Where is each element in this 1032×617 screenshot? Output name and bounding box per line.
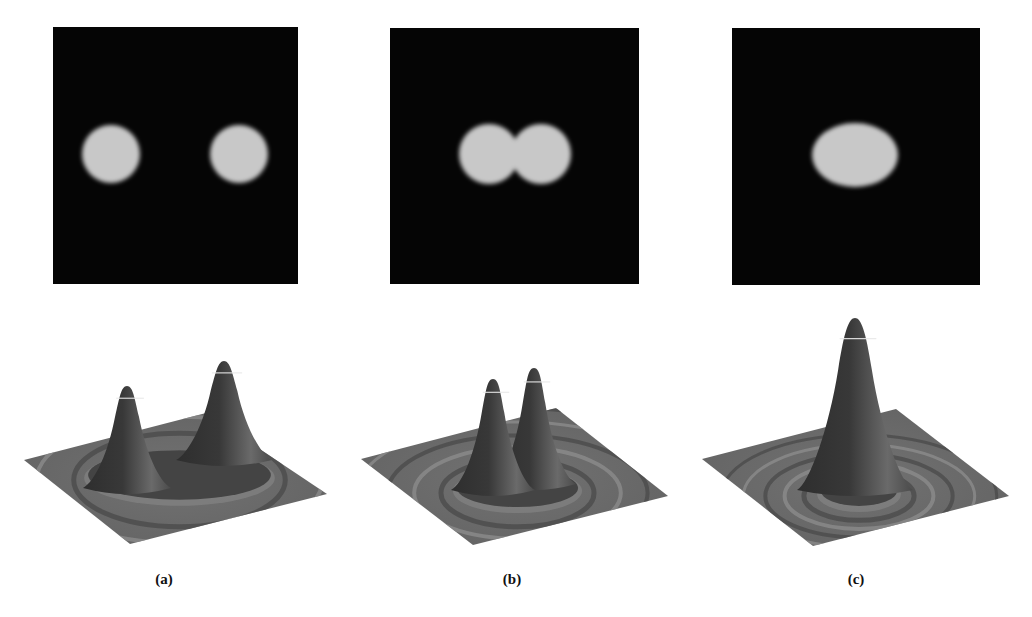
figure-graphics [0,0,1032,617]
bright-spot [210,125,268,183]
caption-a: (a) [155,571,173,588]
bright-spot [511,124,571,184]
caption-c: (c) [848,571,865,588]
spots-a [82,125,268,183]
spots-c [812,123,898,187]
surface-plot-c [702,318,1009,557]
peak [176,361,272,466]
bright-spot [459,124,519,184]
spots-b [459,124,571,184]
caption-b: (b) [503,571,521,588]
surface-plot-b [326,368,709,578]
bright-spot [82,125,140,183]
bright-spot [812,123,898,187]
peak [797,318,913,496]
surface-plot-a [0,361,444,597]
